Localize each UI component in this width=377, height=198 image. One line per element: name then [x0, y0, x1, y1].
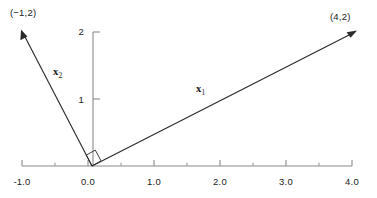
y-axis-ticks [93, 32, 100, 99]
vector-diagram-figure: (−1,2) (4,2) x2 x1 -1.0 0.0 1.0 2.0 3.0 … [0, 0, 377, 198]
vector-label-x1: x1 [196, 84, 205, 95]
x-tick-label-2: 2.0 [198, 177, 242, 187]
y-tick-label-1: 1 [62, 95, 84, 105]
x-tick-label-1: 1.0 [132, 177, 176, 187]
x-tick-label-4: 4.0 [330, 177, 374, 187]
vector-x1-arrowhead [347, 31, 357, 38]
plot-canvas [0, 0, 377, 198]
y-tick-label-2: 2 [62, 27, 84, 37]
vector-x1-shaft [92, 34, 352, 167]
vector-label-x1-base: x [196, 83, 201, 94]
endpoint-label-x2: (−1,2) [10, 8, 36, 18]
x-tick-label-neg1: -1.0 [0, 177, 44, 187]
vector-label-x2: x2 [53, 67, 62, 78]
vector-label-x2-subscript: 2 [59, 71, 63, 80]
vector-x1 [92, 31, 357, 167]
endpoint-label-x1: (4,2) [330, 12, 351, 22]
x-tick-label-0: 0.0 [66, 177, 110, 187]
vector-label-x2-base: x [53, 66, 58, 77]
x-tick-label-3: 3.0 [264, 177, 308, 187]
vector-label-x1-subscript: 1 [202, 88, 206, 97]
